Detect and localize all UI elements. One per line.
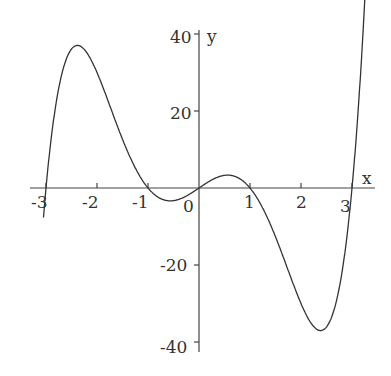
x-tick-label: 1 [244,194,255,211]
x-tick-label: 2 [296,194,307,211]
plot-canvas [0,0,391,376]
y-tick-label: 20 [170,105,192,122]
y-axis-label: y [207,28,217,45]
y-tick-label: 40 [170,29,192,46]
function-plot: x y -3 -2 -1 0 1 2 3 40 20 -20 -40 [0,0,391,376]
function-curve [44,0,366,331]
x-axis-label: x [362,170,372,187]
x-tick-label: 3 [340,198,351,215]
x-tick-label: -3 [31,194,48,211]
y-tick-label: -40 [160,339,187,356]
x-tick-label: -1 [132,194,149,211]
x-tick-label: -2 [82,194,99,211]
y-tick-label: -20 [160,257,187,274]
x-tick-label: 0 [183,198,194,215]
